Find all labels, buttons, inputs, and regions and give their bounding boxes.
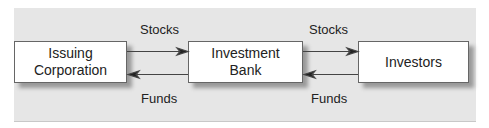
- funds-label-left: Funds: [141, 91, 177, 106]
- stocks-label-right: Stocks: [309, 22, 348, 37]
- stocks-label-left: Stocks: [140, 22, 179, 37]
- arrows: [0, 0, 489, 128]
- funds-label-right: Funds: [311, 91, 347, 106]
